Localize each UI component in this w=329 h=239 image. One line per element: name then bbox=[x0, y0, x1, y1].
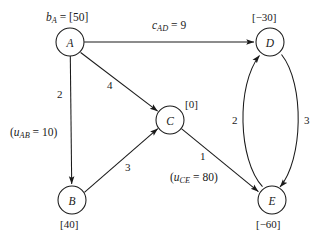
edge-e-d-cost-label: 2 bbox=[232, 115, 238, 126]
node-b-letter: B bbox=[68, 195, 75, 207]
network-flow-diagram: A B C D E bA = [50] [−30] [0] [40] [−60]… bbox=[0, 0, 329, 239]
cap-ce-value: 80) bbox=[202, 171, 217, 183]
node-e-supply-label: [−60] bbox=[256, 219, 281, 230]
node-a-supply-eq: = bbox=[57, 11, 69, 23]
node-a-supply-label: bA = [50] bbox=[46, 12, 88, 26]
edge-a-c-cost-label: 4 bbox=[107, 80, 113, 91]
edge-a-b-capacity-label: (uAB = 10) bbox=[10, 127, 57, 141]
node-a-letter: A bbox=[65, 37, 74, 49]
node-d-letter: D bbox=[265, 37, 275, 49]
cap-ab-eq: = bbox=[30, 126, 42, 138]
cap-ce-subscript: CE bbox=[180, 176, 191, 185]
cost-ad-subscript: AD bbox=[157, 24, 168, 33]
edge-b-c-cost-label: 3 bbox=[125, 162, 131, 173]
graph-canvas: A B C D E bbox=[0, 0, 329, 239]
edge-d-e-cost-label: 3 bbox=[304, 115, 310, 126]
edge-a-d-cost-label: cAD = 9 bbox=[152, 20, 186, 34]
node-b-supply-label: [40] bbox=[60, 219, 78, 230]
edge-a-c bbox=[81, 53, 158, 112]
node-c-letter: C bbox=[166, 115, 174, 127]
cost-ad-eq: = bbox=[168, 19, 180, 31]
node-d-supply-label: [−30] bbox=[252, 12, 277, 23]
edge-b-c bbox=[84, 129, 157, 193]
cap-ce-eq: = bbox=[190, 171, 202, 183]
edge-c-e-capacity-label: (uCE = 80) bbox=[170, 172, 218, 186]
edge-c-e-cost-label: 1 bbox=[200, 151, 206, 162]
node-a-supply-value: [50] bbox=[69, 11, 88, 23]
node-c-supply-label: [0] bbox=[185, 99, 198, 110]
node-e-letter: E bbox=[267, 195, 275, 207]
edge-a-b bbox=[70, 56, 71, 184]
edge-a-b-cost-label: 2 bbox=[57, 89, 63, 100]
cap-ab-value: 10) bbox=[42, 126, 57, 138]
edge-d-e bbox=[280, 55, 298, 188]
edge-e-d bbox=[243, 56, 263, 187]
cost-ad-value: 9 bbox=[180, 19, 186, 31]
cap-ab-subscript: AB bbox=[20, 131, 30, 140]
